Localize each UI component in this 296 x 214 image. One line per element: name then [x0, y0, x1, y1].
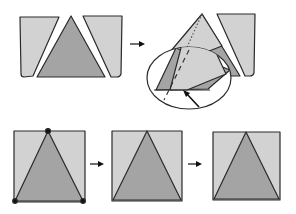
folding-diagram	[0, 0, 296, 214]
dot-right	[81, 199, 86, 204]
step4-square	[112, 131, 182, 201]
dot-left	[13, 199, 18, 204]
right-arrow-icon	[130, 41, 145, 47]
step1-pieces	[20, 16, 122, 77]
step2-fold	[147, 14, 255, 109]
diagram-canvas	[0, 0, 296, 214]
step3-square	[13, 129, 86, 204]
dot-top	[46, 129, 51, 134]
right-arrow-icon	[188, 161, 202, 167]
step5-square	[213, 132, 280, 200]
right-arrow-icon	[90, 161, 104, 167]
